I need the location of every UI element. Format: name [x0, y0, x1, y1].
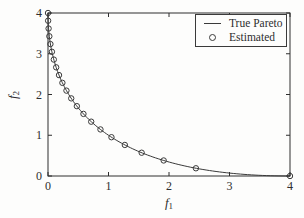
y-tick-label: 4 — [36, 6, 42, 20]
y-tick-label: 3 — [36, 47, 42, 61]
x-axis-label: f1 — [48, 196, 290, 211]
y-axis-label-sub: 2 — [11, 91, 21, 96]
line-swatch-icon — [204, 23, 221, 24]
legend-label-true-pareto: True Pareto — [229, 18, 283, 30]
x-tick-label: 3 — [227, 179, 233, 193]
legend-circle-swatch — [202, 34, 222, 41]
x-tick-label: 4 — [287, 179, 293, 193]
legend-entry-true-pareto: True Pareto — [202, 17, 286, 31]
pareto-front-figure: 0123401234 f2 f1 True Pareto Estimated — [0, 0, 304, 218]
legend-label-estimated: Estimated — [229, 32, 275, 44]
x-tick-label: 2 — [166, 179, 172, 193]
x-tick-label: 0 — [45, 179, 51, 193]
legend-entry-estimated: Estimated — [202, 31, 286, 45]
circle-swatch-icon — [209, 34, 216, 41]
y-tick-label: 2 — [36, 88, 42, 102]
legend: True Pareto Estimated — [195, 14, 287, 47]
y-tick-label: 0 — [36, 169, 42, 183]
y-axis-label: f2 — [6, 91, 21, 99]
y-axis-label-base: f — [5, 95, 20, 99]
x-tick-label: 1 — [106, 179, 112, 193]
y-tick-label: 1 — [36, 128, 42, 142]
x-axis-label-sub: 1 — [169, 201, 174, 211]
legend-line-swatch — [202, 23, 222, 24]
